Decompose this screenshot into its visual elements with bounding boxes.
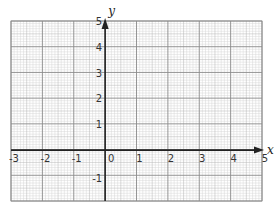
x-tick-label: 5	[262, 153, 268, 164]
y-tick-label: 1	[96, 119, 102, 130]
x-tick-label: 1	[136, 153, 142, 164]
y-axis-tick-labels: -112345	[92, 16, 102, 184]
coordinate-grid: x -3-2-1012345 y -112345	[0, 0, 280, 211]
y-tick-label: 4	[96, 42, 102, 53]
y-tick-label: -1	[92, 173, 102, 184]
x-tick-label: -3	[9, 153, 19, 164]
x-tick-label: 2	[168, 153, 174, 164]
x-tick-label: 3	[199, 153, 205, 164]
x-tick-label: 0	[108, 153, 114, 164]
x-tick-label: -2	[40, 153, 50, 164]
y-tick-label: 3	[96, 68, 102, 79]
y-axis-name: y	[107, 4, 115, 18]
graph-paper-figure: x -3-2-1012345 y -112345	[0, 0, 280, 211]
x-tick-label: 4	[230, 153, 236, 164]
y-tick-label: 2	[96, 93, 102, 104]
y-tick-label: 5	[96, 16, 102, 27]
x-tick-label: -1	[72, 153, 82, 164]
